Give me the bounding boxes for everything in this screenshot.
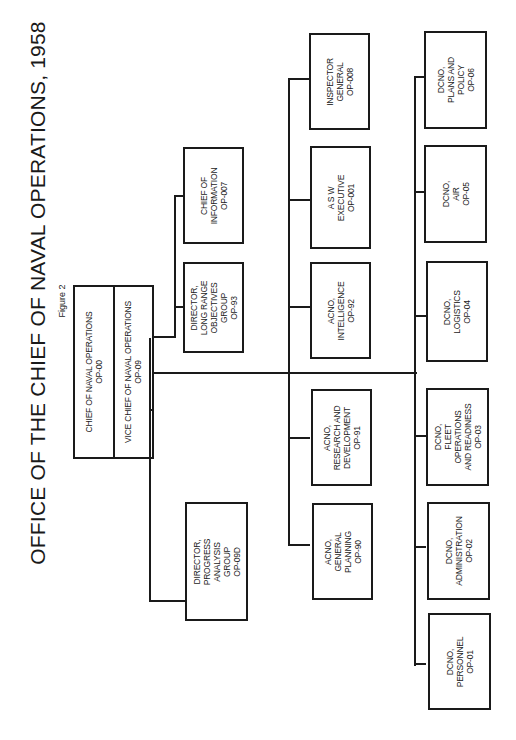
box-dcno-plans-policy: DCNO,PLANS ANDPOLICYOP-06 bbox=[424, 31, 487, 129]
box-acno-intelligence: ACNO,INTELLIGENCEOP-92 bbox=[310, 262, 371, 359]
box-dcno-administration: DCNO,ADMINISTRATIONOP-02 bbox=[427, 502, 490, 600]
vcno-label: VICE CHIEF OF NAVAL OPERATIONS OP-09 bbox=[123, 301, 143, 443]
box-acno-research-development: ACNO,RESEARCH ANDDEVELOPMENTOP-91 bbox=[311, 389, 372, 486]
stub-asw bbox=[288, 199, 310, 201]
box-long-range-objectives-group: DIRECTOR,LONG RANGEOBJECTIVESGROUPOP-93 bbox=[183, 262, 244, 353]
box-dcno-logistics: DCNO,LOGISTICSOP-04 bbox=[426, 261, 488, 362]
box-progress-analysis-group: DIRECTOR,PROGRESSANALYSISGROUPOP-09D bbox=[185, 502, 248, 621]
box-chief-of-information: CHIEF OFINFORMATIONOP-007 bbox=[183, 147, 244, 244]
stub-op02 bbox=[414, 546, 426, 548]
acno-connector-vertical bbox=[288, 78, 290, 545]
box-dcno-fleet-operations: DCNO,FLEETOPERATIONSAND READINESSOP-03 bbox=[426, 388, 489, 486]
stub-op03 bbox=[414, 435, 426, 437]
staff-connector-vertical bbox=[149, 338, 151, 601]
vcno-to-pag bbox=[150, 409, 154, 411]
stub-op01 bbox=[414, 663, 426, 665]
cno-label: CHIEF OF NAVAL OPERATIONS OP-00 bbox=[84, 312, 104, 433]
box-dcno-personnel: DCNO,PERSONNELOP-01 bbox=[428, 613, 491, 710]
box-asw-executive: A S WEXECUTIVEOP-001 bbox=[310, 146, 371, 249]
box-acno-general-planning: ACNO,GENERALPLANNINGOP-90 bbox=[312, 503, 373, 600]
box-dcno-air: DCNO,AIROP-05 bbox=[424, 145, 487, 243]
staff-connector-top bbox=[153, 336, 176, 338]
main-trunk-horizontal bbox=[153, 372, 417, 374]
stub-pag bbox=[149, 600, 186, 602]
chart-title: OFFICE OF THE CHIEF OF NAVAL OPERATIONS,… bbox=[26, 21, 50, 564]
stub-gp bbox=[288, 544, 310, 546]
stub-rnd bbox=[288, 437, 310, 439]
stub-op04 bbox=[414, 315, 426, 317]
box-inspector-general: INSPECTORGENERALOP-008 bbox=[309, 33, 370, 130]
stub-intel bbox=[288, 306, 310, 308]
figure-label: Figure 2 bbox=[57, 284, 67, 317]
staff-connector-upper-vertical bbox=[174, 195, 176, 338]
dcno-connector-vertical bbox=[414, 76, 416, 666]
cno-vcno-box: CHIEF OF NAVAL OPERATIONS OP-00 VICE CHI… bbox=[73, 285, 154, 459]
stub-ig bbox=[288, 78, 310, 80]
